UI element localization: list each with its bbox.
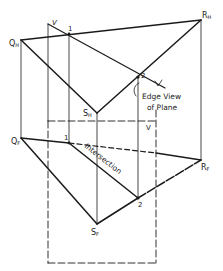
label-r-h: RH (202, 11, 212, 20)
label-q-f: QF (11, 137, 20, 146)
label-v-front: V (146, 124, 151, 132)
edge-qf-sf (21, 138, 97, 224)
label-point-2-top: 2 (141, 72, 145, 80)
edge-rf-visible (156, 153, 201, 160)
intersection-line (69, 143, 138, 198)
point-2-top (136, 75, 139, 78)
label-point-2-front: 2 (138, 201, 142, 209)
label-point-1-top: 1 (68, 25, 72, 33)
v-tick-mark (155, 80, 162, 86)
diagram-canvas: QH RH SH QF RF SF 1 2 1 2 V V Edge View … (0, 0, 223, 271)
label-r-f: RF (201, 163, 210, 172)
edge-sf-2 (97, 198, 138, 224)
label-edge-view-1: Edge View (142, 92, 181, 101)
edge-2-rf (138, 160, 201, 198)
edge-qh-sh (21, 40, 97, 113)
label-s-f: SF (91, 228, 99, 237)
label-v-top: V (52, 19, 58, 27)
label-edge-view-2: of Plane (147, 103, 178, 112)
label-point-1-front: 1 (64, 134, 68, 142)
point-1-top (68, 33, 71, 36)
edge-qf-1 (21, 138, 69, 143)
edge-view-line (48, 24, 165, 88)
point-2-front (136, 196, 139, 199)
label-s-h: SH (83, 109, 92, 118)
label-q-h: QH (9, 39, 19, 48)
point-1-front (68, 142, 71, 145)
